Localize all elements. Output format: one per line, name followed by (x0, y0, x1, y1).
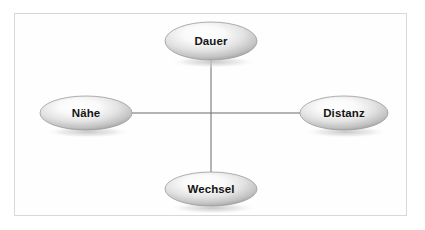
node-naehe[interactable] (40, 96, 132, 130)
node-wechsel[interactable] (165, 172, 257, 206)
diagram-root: Dauer Nähe Distanz Wechsel (0, 0, 425, 230)
connector-group (132, 60, 300, 172)
node-distanz[interactable] (300, 96, 388, 130)
node-dauer[interactable] (165, 22, 257, 60)
diagram-canvas (0, 0, 425, 230)
node-group (40, 22, 388, 206)
